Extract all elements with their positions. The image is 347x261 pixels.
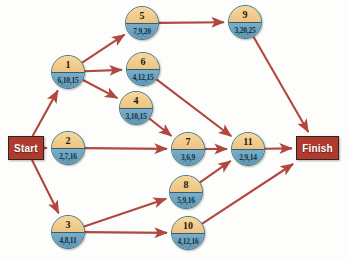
node-6-top: 6 [127, 53, 159, 69]
node-9-times: 3,20,25 [234, 27, 255, 35]
terminal-start[interactable]: Start [8, 136, 44, 160]
node-11-bottom: 2,9,14 [232, 149, 264, 165]
node-2-bottom: 2,7,16 [52, 148, 84, 164]
edge-start-to-1 [33, 90, 58, 136]
node-7-id: 7 [186, 137, 191, 147]
node-3-times: 4,8,11 [59, 237, 76, 245]
node-1-times: 6,10,15 [57, 77, 78, 85]
node-7[interactable]: 73,6,9 [171, 132, 205, 166]
edge-start-to-3 [32, 160, 59, 213]
node-6[interactable]: 64,12,15 [126, 52, 160, 86]
node-10-bottom: 4,12,16 [172, 233, 204, 249]
node-10-id: 10 [183, 221, 193, 231]
node-9-bottom: 3,20,25 [229, 22, 261, 38]
node-3-top: 3 [52, 216, 84, 232]
node-11[interactable]: 112,9,14 [231, 132, 265, 166]
node-4-bottom: 3,10,15 [120, 108, 152, 124]
node-5-id: 5 [140, 11, 145, 21]
edge-8-to-11 [200, 161, 231, 182]
edge-10-to-finish [202, 164, 293, 224]
node-3[interactable]: 34,8,11 [51, 215, 85, 249]
node-8[interactable]: 85,9,16 [169, 175, 203, 209]
node-2-times: 2,7,16 [59, 153, 77, 161]
node-1-id: 1 [66, 60, 71, 70]
node-7-bottom: 3,6,9 [172, 149, 204, 165]
edge-4-to-7 [149, 119, 171, 136]
node-8-bottom: 5,9,16 [170, 192, 202, 208]
node-1-bottom: 6,10,15 [52, 72, 84, 88]
node-7-top: 7 [172, 133, 204, 149]
node-11-top: 11 [232, 133, 264, 149]
terminal-finish[interactable]: Finish [296, 136, 339, 160]
node-8-id: 8 [184, 180, 189, 190]
edge-3-to-10 [85, 232, 167, 233]
edge-5-to-9 [159, 22, 224, 23]
edge-3-to-8 [84, 199, 166, 227]
edge-1-to-6 [85, 70, 122, 71]
edge-9-to-finish [253, 37, 308, 132]
node-5-top: 5 [126, 7, 158, 23]
node-5-bottom: 7,9,20 [126, 23, 158, 39]
node-10-times: 4,12,16 [177, 238, 198, 246]
edge-2-to-7 [85, 148, 167, 149]
node-8-top: 8 [170, 176, 202, 192]
node-9-top: 9 [229, 6, 261, 22]
edge-6-to-11 [157, 79, 232, 136]
node-4-times: 3,10,15 [125, 113, 146, 121]
node-11-id: 11 [243, 137, 252, 147]
node-4-id: 4 [134, 96, 139, 106]
node-4-top: 4 [120, 92, 152, 108]
node-2[interactable]: 22,7,16 [51, 131, 85, 165]
node-10-top: 10 [172, 217, 204, 233]
node-2-id: 2 [66, 136, 71, 146]
node-1-top: 1 [52, 56, 84, 72]
node-7-times: 3,6,9 [181, 154, 195, 162]
node-10[interactable]: 104,12,16 [171, 216, 205, 250]
terminal-start-label: Start [14, 143, 38, 154]
node-8-times: 5,9,16 [177, 197, 195, 205]
node-1[interactable]: 16,10,15 [51, 55, 85, 89]
node-3-id: 3 [66, 220, 71, 230]
node-9[interactable]: 93,20,25 [228, 5, 262, 39]
node-2-top: 2 [52, 132, 84, 148]
node-3-bottom: 4,8,11 [52, 232, 84, 248]
node-6-bottom: 4,12,15 [127, 69, 159, 85]
node-4[interactable]: 43,10,15 [119, 91, 153, 125]
terminal-finish-label: Finish [302, 143, 333, 154]
node-6-times: 4,12,15 [132, 74, 153, 82]
node-5-times: 7,9,20 [133, 28, 151, 36]
node-11-times: 2,9,14 [239, 154, 257, 162]
node-9-id: 9 [243, 10, 248, 20]
network-diagram: Start Finish 16,10,1522,7,1634,8,1143,10… [0, 0, 347, 261]
node-5[interactable]: 57,9,20 [125, 6, 159, 40]
edge-1-to-4 [83, 80, 117, 98]
edge-1-to-5 [82, 35, 124, 63]
node-6-id: 6 [141, 57, 146, 67]
